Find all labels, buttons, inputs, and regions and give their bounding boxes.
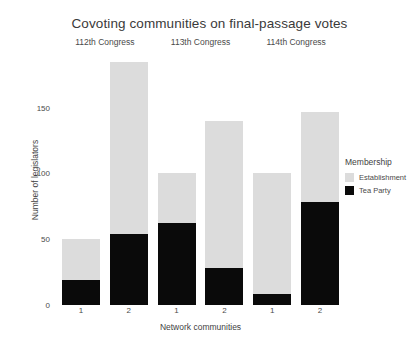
bar-segment-tea-party	[158, 223, 196, 305]
facet-grid	[57, 55, 344, 305]
y-tick-0: 0	[46, 301, 50, 310]
bar-segment-tea-party	[301, 202, 339, 305]
bar-stack[interactable]	[205, 55, 243, 305]
x-tick: 1	[158, 306, 196, 322]
x-facet-ticks-2: 1 2	[153, 306, 249, 322]
legend-item-tea-party[interactable]: Tea Party	[345, 186, 419, 195]
bar-segment-tea-party	[62, 280, 100, 305]
legend-swatch-tea-party	[345, 186, 354, 195]
y-tick-50: 50	[41, 235, 50, 244]
bar-segment-establishment	[205, 121, 243, 268]
bar-stack[interactable]	[301, 55, 339, 305]
facet-strip-label-1: 112th Congress	[57, 37, 153, 53]
bar-segment-establishment	[110, 62, 148, 234]
bar-segment-establishment	[158, 173, 196, 223]
y-axis-title: Number of legislators	[30, 115, 40, 245]
chart-title: Covoting communities on final-passage vo…	[0, 16, 419, 31]
facet-strip-row: 112th Congress 113th Congress 114th Cong…	[57, 37, 344, 53]
x-facet-ticks-1: 1 2	[57, 306, 153, 322]
bar-segment-tea-party	[253, 294, 291, 305]
bar-stack[interactable]	[253, 55, 291, 305]
bar-stack[interactable]	[158, 55, 196, 305]
facet-strip-label-3: 114th Congress	[248, 37, 344, 53]
x-tick: 2	[301, 306, 339, 322]
bar-segment-establishment	[301, 112, 339, 203]
x-axis: 1 2 1 2 1 2	[57, 306, 344, 322]
x-tick: 2	[110, 306, 148, 322]
x-axis-title: Network communities	[57, 322, 344, 332]
facet-114th-congress	[248, 55, 344, 305]
chart-container: Covoting communities on final-passage vo…	[0, 0, 419, 349]
legend-label-establishment: Establishment	[359, 173, 406, 182]
bar-stack[interactable]	[110, 55, 148, 305]
facet-112th-congress	[57, 55, 153, 305]
x-tick: 1	[62, 306, 100, 322]
bar-segment-establishment	[253, 173, 291, 294]
plot-panel	[57, 55, 344, 305]
bar-segment-tea-party	[205, 268, 243, 305]
y-tick-150: 150	[37, 103, 50, 112]
x-tick: 2	[205, 306, 243, 322]
legend-item-establishment[interactable]: Establishment	[345, 173, 419, 182]
bar-segment-tea-party	[110, 234, 148, 305]
legend-swatch-establishment	[345, 173, 354, 182]
facet-strip-label-2: 113th Congress	[153, 37, 249, 53]
y-axis-title-host: Number of legislators	[16, 55, 30, 305]
bar-stack[interactable]	[62, 55, 100, 305]
x-facet-ticks-3: 1 2	[248, 306, 344, 322]
legend-label-tea-party: Tea Party	[359, 186, 391, 195]
legend: Membership Establishment Tea Party	[345, 157, 419, 199]
legend-title: Membership	[345, 157, 419, 167]
bar-segment-establishment	[62, 239, 100, 280]
x-tick: 1	[253, 306, 291, 322]
facet-113th-congress	[153, 55, 249, 305]
